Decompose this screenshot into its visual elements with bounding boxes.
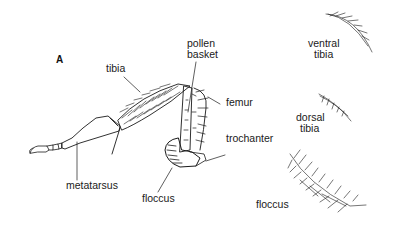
label-metatarsus: metatarsus [66,180,118,191]
label-trochanter: trochanter [226,133,273,144]
panel-label: A [56,54,63,65]
bee-leg-diagram: A tibia pollen basket femur trochanter m… [0,0,393,234]
label-dorsal-tibia-line2: tibia [300,123,319,134]
floccus-hair [288,150,366,212]
leg-illustration [0,0,393,234]
label-floccus-hair: floccus [256,199,289,210]
tarsus-drawing [29,143,62,153]
femur-drawing [180,86,208,152]
label-pollen-basket-line2: basket [187,49,218,60]
tibia-drawing [118,84,190,130]
label-ventral-tibia-line2: tibia [314,49,333,60]
label-tibia: tibia [106,63,125,74]
label-femur: femur [226,97,253,108]
metatarsus-drawing [62,116,120,149]
trochanter-drawing [165,138,206,167]
label-floccus-leg: floccus [142,193,175,204]
leader-lines [77,62,225,192]
